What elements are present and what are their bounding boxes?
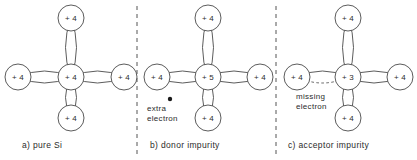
atom-charge-label: + 4 [254,73,266,82]
atom-charge-label: + 4 [202,14,214,23]
panel-a: + 4+ 4+ 4+ 4+ 4 [5,5,137,131]
annotation-line-2: electron [147,114,178,124]
atom-neighbor-bottom: + 4 [58,105,84,131]
atom-charge-label: + 4 [342,14,354,23]
atom-center: + 5 [195,64,221,90]
panel-caption-b: b) donor impurity [150,140,220,150]
annotation-line-2: electron [296,102,327,112]
annotation-line-1: extra [147,104,178,114]
atom-neighbor-top: + 4 [335,5,361,31]
atom-neighbor-bottom: + 4 [335,105,361,131]
atom-neighbor-right: + 4 [247,64,273,90]
atom-charge-label: + 4 [65,114,77,123]
lattice-diagram: + 4+ 4+ 4+ 4+ 4+ 4+ 4+ 4+ 4+ 5+ 4+ 4+ 4+… [0,0,417,160]
atom-neighbor-left: + 4 [284,64,310,90]
atom-neighbor-top: + 4 [195,5,221,31]
atom-charge-label: + 4 [12,73,24,82]
extra-electron-dot [168,97,172,101]
annotation-c: missingelectron [296,92,327,112]
atom-center: + 3 [335,64,361,90]
annotation-line-1: missing [296,92,327,102]
atom-neighbor-left: + 4 [5,64,31,90]
panel-c: + 4+ 4+ 4+ 4+ 3 [284,5,413,131]
atom-charge-label: + 4 [394,73,406,82]
atom-center: + 4 [58,64,84,90]
atom-charge-label: + 3 [342,73,354,82]
atom-charge-label: + 4 [342,114,354,123]
atom-charge-label: + 4 [151,73,163,82]
atom-neighbor-bottom: + 4 [195,105,221,131]
atom-neighbor-right: + 4 [387,64,413,90]
atom-neighbor-top: + 4 [58,5,84,31]
atom-charge-label: + 4 [202,114,214,123]
annotation-b: extraelectron [147,104,178,124]
panel-caption-c: c) acceptor impurity [288,140,369,150]
atom-charge-label: + 4 [291,73,303,82]
atom-neighbor-right: + 4 [111,64,137,90]
panel-caption-a: a) pure Si [22,140,62,150]
figure-root: + 4+ 4+ 4+ 4+ 4+ 4+ 4+ 4+ 4+ 5+ 4+ 4+ 4+… [0,0,417,160]
atom-neighbor-left: + 4 [144,64,170,90]
atom-charge-label: + 4 [118,73,130,82]
atom-charge-label: + 5 [202,73,214,82]
atom-charge-label: + 4 [65,73,77,82]
atom-charge-label: + 4 [65,14,77,23]
